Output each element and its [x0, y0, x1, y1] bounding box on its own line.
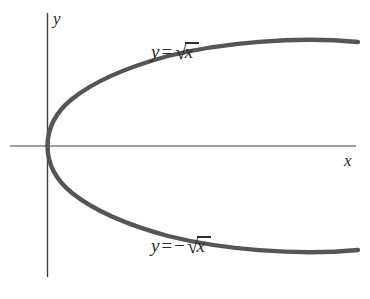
- y-axis-label: y: [53, 10, 61, 27]
- lower-curve-equation-label: y=−√x: [151, 235, 206, 256]
- upper-label-equals: =: [159, 41, 174, 62]
- upper-curve-equation-label: y=√x: [151, 41, 194, 62]
- square-root-parabola-figure: y x y=√x y=−√x: [0, 0, 370, 299]
- upper-label-radical: √x: [174, 41, 194, 62]
- x-axis-label: x: [344, 152, 352, 169]
- lower-label-radicand: x: [196, 235, 204, 256]
- lower-label-minus-sign: −: [174, 235, 186, 256]
- lower-label-radical: √x: [186, 235, 206, 256]
- upper-label-radicand: x: [185, 41, 193, 62]
- curve-upper-sqrt: [48, 40, 359, 146]
- lower-label-equals: =: [159, 235, 174, 256]
